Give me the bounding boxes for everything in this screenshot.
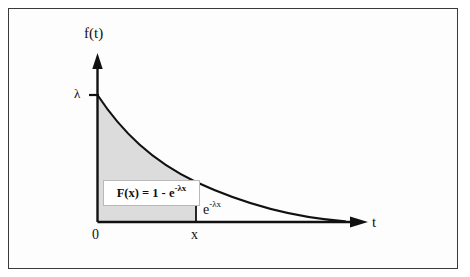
x-axis-origin-label: 0 bbox=[92, 228, 99, 242]
exponential-plot-canvas bbox=[0, 0, 470, 277]
y-axis-arrowhead bbox=[92, 53, 102, 69]
t-axis-arrowhead bbox=[350, 216, 368, 227]
cdf-formula-exponent-text: -λx bbox=[174, 183, 186, 193]
tail-probability-annotation: e-λx bbox=[203, 201, 221, 217]
tail-exponent-text: -λx bbox=[209, 199, 221, 209]
cdf-formula-prefix-text: F(x) = 1 - e bbox=[117, 187, 175, 201]
y-axis-tick-label-lambda: λ bbox=[74, 87, 80, 100]
cdf-formula-box: F(x) = 1 - e-λx bbox=[103, 180, 200, 206]
x-axis-tick-label-x: x bbox=[191, 228, 198, 242]
figure-root: f(t) λ t 0 x e-λx F(x) = 1 - e-λx bbox=[0, 0, 470, 277]
x-axis-label: t bbox=[372, 215, 376, 230]
y-axis-label: f(t) bbox=[84, 26, 103, 41]
